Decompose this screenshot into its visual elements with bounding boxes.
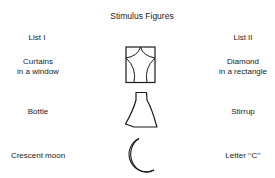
label-line: in a rectangle [219,67,267,77]
curtains-window-icon [125,46,157,84]
diamond-in-rectangle-figure [125,46,157,84]
list-1-header: List I [29,33,46,43]
list-2-label-letter-c: Letter ‘‘C’’ [225,151,260,161]
label-line: Diamond [219,57,267,67]
label-line: Curtains [17,57,59,67]
list-1-label-crescent: Crescent moon [11,151,65,161]
list-2-label-diamond: Diamond in a rectangle [219,57,267,77]
bottle-stirrup-figure [124,91,160,129]
list-1-label-bottle: Bottle [28,107,48,117]
list-2-label-stirrup: Stirrup [231,107,255,117]
bottle-icon [124,91,160,129]
crescent-moon-icon [118,136,158,176]
list-2-header: List II [233,33,252,43]
crescent-c-figure [118,136,158,176]
figure-title: Stimulus Figures [110,11,173,21]
label-line: in a window [17,67,59,77]
list-1-label-curtains: Curtains in a window [17,57,59,77]
